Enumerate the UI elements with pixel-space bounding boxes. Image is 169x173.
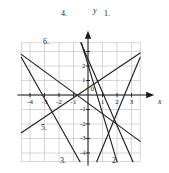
y-tick-label: 1 [82, 77, 86, 84]
y-tick-label: -1 [80, 106, 86, 113]
plot-border [21, 43, 140, 162]
label-6: 6. [43, 38, 49, 46]
y-tick-label: -3 [80, 135, 86, 142]
x-tick-label: 1 [101, 99, 105, 106]
graph-figure: -4-3-2-1123321-1-2-3-40 1.2.3.4.5.6. x y [0, 0, 169, 173]
x-axis-label: x [158, 98, 162, 106]
x-tick-label: 3 [130, 99, 134, 106]
label-2: 2. [112, 157, 118, 165]
origin-label: 0 [91, 86, 95, 93]
x-tick-label: 2 [115, 99, 119, 106]
label-3: 3. [60, 157, 66, 165]
label-1: 1. [104, 10, 110, 18]
plot-line-1 [81, 43, 133, 162]
plotted-lines [21, 43, 140, 162]
y-tick-label: -4 [80, 150, 86, 157]
x-tick-label: -4 [27, 99, 33, 106]
y-tick-label: 3 [82, 48, 86, 55]
label-5: 5. [41, 124, 47, 132]
x-axis-arrowhead [146, 92, 154, 98]
y-tick-label: -2 [80, 121, 86, 128]
y-axis-arrowhead [85, 31, 91, 39]
y-axis-label: y [93, 7, 97, 15]
x-tick-label: -1 [71, 99, 77, 106]
plot-line-6 [21, 54, 140, 141]
x-tick-label: -2 [56, 99, 62, 106]
y-tick-label: 2 [82, 63, 86, 70]
label-4: 4. [61, 10, 67, 18]
coordinate-plane [0, 0, 169, 173]
x-tick-label: -3 [42, 99, 48, 106]
gridlines [21, 43, 140, 162]
